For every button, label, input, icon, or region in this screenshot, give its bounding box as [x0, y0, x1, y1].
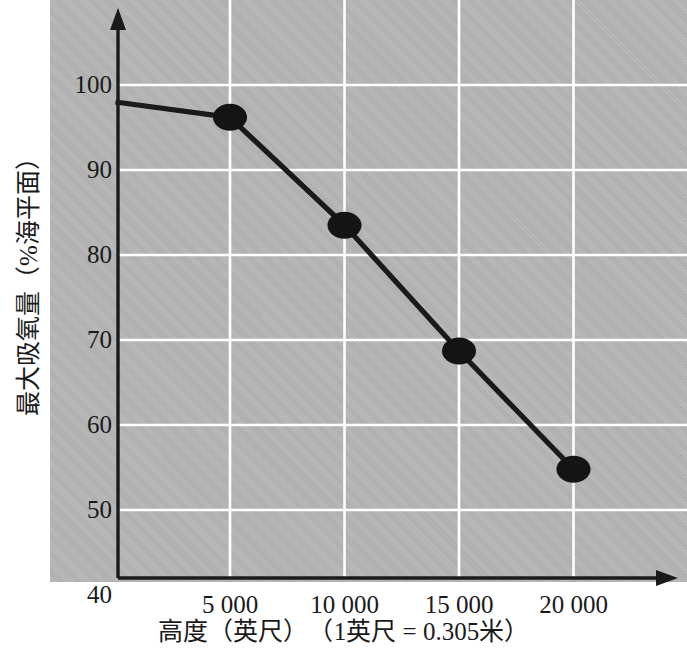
- horizontal-gridlines: [118, 85, 687, 510]
- y-tick-label: 70: [58, 327, 112, 352]
- y-tick-label: 50: [58, 497, 112, 522]
- axes-lines: [110, 8, 678, 586]
- chart-figure: 405060708090100 5 00010 00015 00020 000 …: [0, 0, 687, 653]
- data-point-marker: [557, 456, 591, 483]
- x-axis-title: 高度（英尺） （1英尺 = 0.305米）: [0, 618, 687, 647]
- x-tick-label: 20 000: [504, 592, 644, 617]
- y-axis-arrow-icon: [110, 8, 126, 30]
- y-tick-label: 80: [58, 242, 112, 267]
- x-axis-arrow-icon: [656, 570, 678, 586]
- y-tick-label: 60: [58, 412, 112, 437]
- y-axis-title: 最大吸氧量（%海平面）: [16, 31, 41, 531]
- data-point-marker: [328, 212, 362, 239]
- data-point-marker: [213, 104, 247, 131]
- data-point-marker: [442, 338, 476, 365]
- y-tick-labels: 405060708090100: [52, 0, 112, 582]
- y-tick-label: 90: [58, 157, 112, 182]
- y-tick-label: 40: [58, 582, 112, 607]
- y-tick-label: 100: [58, 72, 112, 97]
